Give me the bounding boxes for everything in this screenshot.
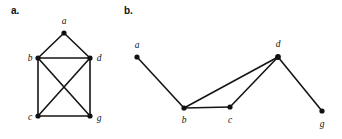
- graph-node-label-b: b: [28, 53, 33, 63]
- figure-root: a. b. abdcg abcdg: [0, 0, 342, 139]
- graph-node-c: [227, 104, 232, 109]
- graph-node-a: [61, 30, 66, 35]
- graph-node-label-c: c: [228, 115, 233, 125]
- graph-edge-b-c: [184, 107, 230, 108]
- graph-node-b: [181, 105, 186, 110]
- graph-node-label-g: g: [320, 119, 325, 129]
- graph-edge-c-d: [230, 57, 278, 107]
- graph-node-a: [134, 54, 139, 59]
- graph-b: abcdg: [134, 39, 324, 129]
- graph-diagram-canvas: abdcg abcdg: [0, 0, 342, 139]
- graph-node-g: [319, 108, 324, 113]
- graph-node-g: [87, 113, 92, 118]
- graph-node-d: [275, 54, 281, 60]
- graph-node-c: [35, 113, 40, 118]
- graph-node-label-c: c: [28, 112, 33, 122]
- graph-edge-b-d: [184, 57, 278, 108]
- graph-node-label-b: b: [182, 115, 187, 125]
- graph-edge-d-g: [278, 57, 322, 111]
- graph-node-d: [87, 55, 92, 60]
- graph-node-label-d: d: [276, 39, 281, 49]
- graph-a: abdcg: [28, 16, 102, 123]
- graph-node-label-g: g: [97, 113, 102, 123]
- graph-node-label-d: d: [97, 53, 102, 63]
- graph-edge-a-b: [38, 33, 64, 58]
- graph-edge-a-b: [137, 57, 184, 108]
- graph-node-b: [35, 55, 40, 60]
- graph-edge-a-d: [64, 33, 90, 58]
- graph-node-label-a: a: [62, 16, 67, 26]
- graph-node-label-a: a: [135, 40, 140, 50]
